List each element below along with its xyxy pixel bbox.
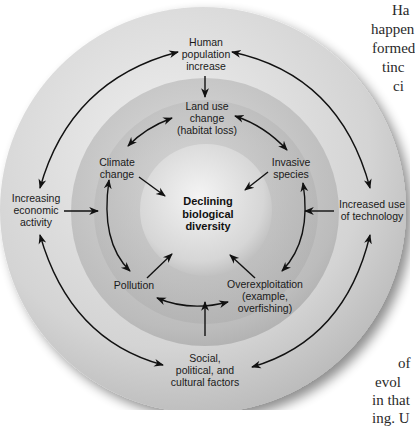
text-line: Pollution: [114, 279, 154, 291]
center-label: Declining biological diversity: [182, 195, 233, 233]
text-line: Land use: [177, 100, 237, 112]
label-land-use: Land use change (habitat loss): [177, 100, 237, 136]
text-line: activity: [12, 216, 60, 228]
side-text-line: tinc: [382, 58, 405, 77]
text-line: overfishing): [227, 302, 303, 314]
label-social-factors: Social, political, and cultural factors: [171, 352, 239, 388]
text-line: Climate: [99, 156, 135, 168]
label-economic-activity: Increasing economic activity: [12, 192, 60, 228]
side-text-line: ci: [393, 77, 404, 96]
side-text-line: of: [398, 354, 411, 373]
text-line: economic: [12, 204, 60, 216]
center-line-2: biological: [182, 208, 233, 221]
label-technology: Increased use of technology: [339, 198, 405, 222]
side-text-line: happen: [371, 20, 414, 39]
text-line: change: [99, 168, 135, 180]
text-line: change: [177, 112, 237, 124]
side-text-line: ing. U: [372, 409, 410, 428]
label-human-population: Human population increase: [182, 36, 230, 72]
text-line: of technology: [339, 210, 405, 222]
text-line: Increased use: [339, 198, 405, 210]
label-pollution: Pollution: [114, 279, 154, 291]
label-overexploitation: Overexploitation (example, overfishing): [227, 278, 303, 314]
center-line-1: Declining: [182, 195, 233, 208]
text-line: political, and: [171, 364, 239, 376]
text-line: Increasing: [12, 192, 60, 204]
text-line: Invasive: [272, 156, 311, 168]
side-text-line: in that: [372, 391, 410, 410]
text-line: Human: [182, 36, 230, 48]
label-invasive-species: Invasive species: [272, 156, 311, 180]
text-line: Social,: [171, 352, 239, 364]
text-line: population: [182, 48, 230, 60]
center-line-3: diversity: [182, 220, 233, 233]
text-line: species: [272, 168, 311, 180]
text-line: increase: [182, 60, 230, 72]
side-text-line: evol: [375, 373, 401, 392]
text-line: Overexploitation: [227, 278, 303, 290]
label-climate-change: Climate change: [99, 156, 135, 180]
text-line: (habitat loss): [177, 124, 237, 136]
side-text-line: formed: [372, 39, 415, 58]
text-line: cultural factors: [171, 376, 239, 388]
text-line: (example,: [227, 290, 303, 302]
side-text-line: Ha: [392, 1, 410, 20]
